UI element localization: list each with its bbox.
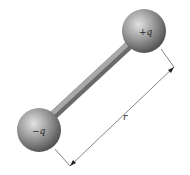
negative-charge-sphere: −q (17, 108, 61, 152)
separation-label: r (123, 112, 128, 122)
extension-line-top (161, 49, 174, 67)
positive-charge-sphere: +q (122, 9, 166, 53)
extension-line-bottom (55, 149, 70, 166)
separation-dimension (55, 49, 174, 166)
connecting-rod (43, 35, 138, 124)
dipole-diagram: −q +q r (0, 0, 190, 175)
negative-charge-label: −q (32, 126, 46, 136)
positive-charge-label: +q (139, 27, 153, 37)
